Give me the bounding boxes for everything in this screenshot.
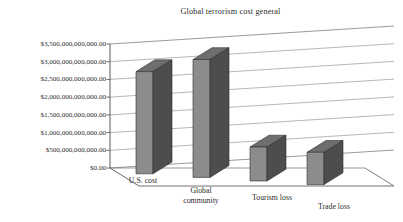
y-tick-label-500b: $500,000,000,000.00 xyxy=(2,146,106,154)
x-category-label-global-community: Global community xyxy=(166,186,236,205)
y-tick-label-1000b: $1,000,000,000,000.00 xyxy=(2,129,106,137)
bar-us-cost[interactable] xyxy=(136,60,172,174)
y-tick-label-0: $0.00 xyxy=(2,164,106,172)
y-tick-label-2500b: $2,500,000,000,000.00 xyxy=(2,75,106,83)
y-tick-label-3000b: $3,000,000,000,000.00 xyxy=(2,58,106,66)
y-tick-label-2000b: $2,000,000,000,000.00 xyxy=(2,93,106,101)
bar-global-community[interactable] xyxy=(193,48,229,178)
y-tick-label-1500b: $1,500,000,000,000.00 xyxy=(2,111,106,119)
y-axis-label-group: $3,500,000,000,000.00 $3,000,000,000,000… xyxy=(0,0,106,222)
x-category-label-us-cost: U.S. cost xyxy=(108,176,178,186)
x-category-label-global-community-line2: community xyxy=(183,196,219,205)
y-tick-label-3500b: $3,500,000,000,000.00 xyxy=(2,40,106,48)
x-category-label-global-community-line1: Global xyxy=(190,186,211,195)
y-axis-ticks xyxy=(107,44,111,168)
x-category-label-trade-loss: Trade loss xyxy=(299,202,369,212)
chart-container: Global terrorism cost general xyxy=(0,0,403,222)
